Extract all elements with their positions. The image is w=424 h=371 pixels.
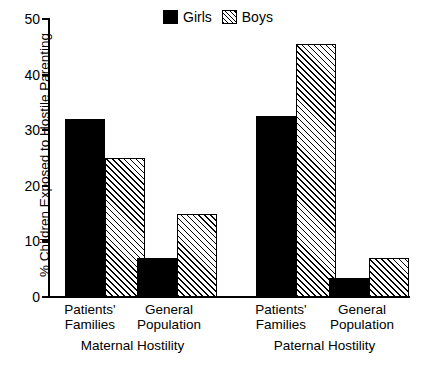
y-tick-label-20: 20 [14,179,40,193]
chart-legend: Girls Boys [163,7,273,27]
x-group-label-maternal: Maternal Hostility [50,338,215,353]
x-category-label-paternal-patients: Patients' Families [247,302,315,332]
y-tick-10 [42,240,49,242]
x-category-line2: Population [330,317,394,332]
x-category-line1: General [338,302,386,317]
bar-girls-0 [65,119,105,297]
x-category-label-paternal-general: General Population [320,302,404,332]
y-tick-label-40: 40 [14,68,40,82]
y-tick-label-50: 50 [14,12,40,26]
y-tick-50 [42,18,49,20]
bar-boys-1 [177,214,217,297]
x-group-label-paternal: Paternal Hostility [242,338,407,353]
bar-girls-1 [137,258,177,297]
y-tick-label-0: 0 [14,290,40,304]
x-category-label-maternal-patients: Patients' Families [56,302,124,332]
x-category-line1: Patients' [64,302,115,317]
bar-girls-3 [329,278,369,297]
x-category-line2: Families [65,317,115,332]
y-tick-label-30: 30 [14,123,40,137]
solid-square-icon [163,10,178,24]
hatched-square-icon [222,10,237,24]
y-tick-30 [42,129,49,131]
legend-label-boys: Boys [242,10,273,24]
bar-chart: Girls Boys % Children Exposed to Hostile… [0,0,424,371]
y-tick-0 [42,296,49,298]
y-tick-label-10: 10 [14,234,40,248]
bar-boys-2 [296,44,336,297]
y-axis-line [48,18,50,298]
x-category-line1: Patients' [255,302,306,317]
legend-item-girls: Girls [163,10,212,24]
y-tick-40 [42,74,49,76]
legend-item-boys: Boys [222,10,273,24]
y-tick-20 [42,185,49,187]
x-category-line2: Families [256,317,306,332]
bar-boys-3 [369,258,409,297]
x-category-label-maternal-general: General Population [127,302,211,332]
legend-label-girls: Girls [183,10,212,24]
x-category-line2: Population [137,317,201,332]
bar-girls-2 [256,116,296,297]
x-category-line1: General [145,302,193,317]
